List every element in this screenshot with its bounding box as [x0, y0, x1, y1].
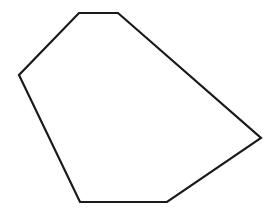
hexagon-figure	[0, 0, 277, 214]
drawing-canvas	[0, 0, 277, 214]
